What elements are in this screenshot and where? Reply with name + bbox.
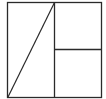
- square-partition-diagram: [0, 0, 106, 99]
